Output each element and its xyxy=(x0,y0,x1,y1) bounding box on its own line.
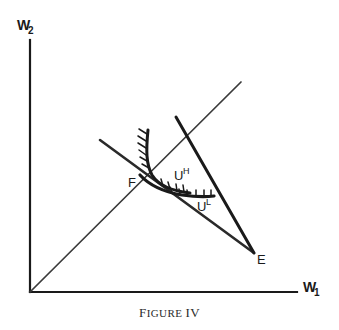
curve-label-high: U H xyxy=(174,166,190,183)
fair-odds-line xyxy=(100,140,254,253)
figure-caption-word: IGURE xyxy=(147,307,186,319)
curve-label-low: U L xyxy=(197,197,211,214)
point-label-E: E xyxy=(257,252,266,267)
budget-line xyxy=(176,117,254,253)
figure-panel: W 2 W 1 F E U H U L FIGURE IV xyxy=(0,0,339,330)
y-axis-label-subscript: 2 xyxy=(28,25,34,36)
figure-caption-first-letter: F xyxy=(139,305,147,320)
curve-label-low-base: U xyxy=(197,199,206,214)
figure-canvas: W 2 W 1 F E U H U L xyxy=(0,0,339,330)
point-label-F: F xyxy=(128,175,136,190)
curve-label-high-superscript: H xyxy=(183,166,190,176)
curve-label-low-superscript: L xyxy=(206,197,211,207)
figure-caption: FIGURE IV xyxy=(0,305,339,321)
x-axis-label-subscript: 1 xyxy=(314,287,320,298)
x-axis-label: W 1 xyxy=(303,279,320,298)
curve-label-high-base: U xyxy=(174,168,183,183)
y-axis-label: W 2 xyxy=(17,17,34,36)
figure-caption-number: IV xyxy=(185,305,200,320)
